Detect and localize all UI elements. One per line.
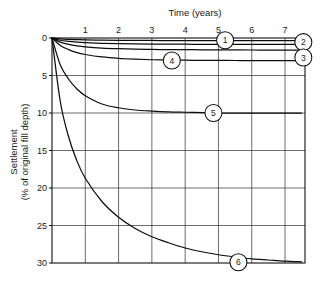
curve-6 bbox=[52, 38, 302, 262]
callout-label-4: 4 bbox=[169, 56, 174, 66]
y-tick-5: 5 bbox=[42, 71, 47, 81]
settlement-vs-time-chart: Time (years) Settlement(% of original fi… bbox=[0, 0, 332, 284]
y-tick-20: 20 bbox=[37, 183, 47, 193]
callout-label-3: 3 bbox=[301, 53, 306, 63]
y-tick-25: 25 bbox=[37, 221, 47, 231]
y-axis-tick-labels: 051015202530 bbox=[37, 33, 52, 268]
callout-5: 5 bbox=[205, 105, 222, 122]
x-tick-7: 7 bbox=[283, 25, 288, 35]
callout-1: 1 bbox=[217, 32, 234, 49]
callout-label-1: 1 bbox=[223, 35, 228, 45]
gridlines bbox=[52, 38, 305, 263]
x-axis-title: Time (years) bbox=[169, 7, 222, 18]
callout-label-5: 5 bbox=[211, 108, 216, 118]
x-tick-2: 2 bbox=[116, 25, 121, 35]
y-axis-title-group: Settlement(% of original fill depth) bbox=[8, 104, 30, 201]
y-tick-10: 10 bbox=[37, 108, 47, 118]
data-curves bbox=[52, 38, 302, 262]
y-tick-15: 15 bbox=[37, 146, 47, 156]
x-tick-4: 4 bbox=[183, 25, 188, 35]
x-axis-title-group: Time (years) bbox=[169, 7, 222, 18]
callout-2: 2 bbox=[295, 34, 312, 51]
x-tick-3: 3 bbox=[149, 25, 154, 35]
callout-3: 3 bbox=[295, 49, 312, 66]
x-tick-1: 1 bbox=[83, 25, 88, 35]
callout-label-2: 2 bbox=[301, 37, 306, 47]
chart-canvas: Time (years) Settlement(% of original fi… bbox=[0, 0, 332, 284]
x-tick-6: 6 bbox=[249, 25, 254, 35]
callout-6: 6 bbox=[230, 254, 247, 271]
callout-4: 4 bbox=[163, 52, 180, 69]
y-tick-0: 0 bbox=[42, 33, 47, 43]
series-callouts: 123456 bbox=[163, 32, 311, 271]
x-axis-tick-labels: 1234567 bbox=[83, 25, 288, 35]
y-tick-30: 30 bbox=[37, 258, 47, 268]
y-axis-title: Settlement(% of original fill depth) bbox=[8, 104, 30, 201]
callout-label-6: 6 bbox=[236, 257, 241, 267]
